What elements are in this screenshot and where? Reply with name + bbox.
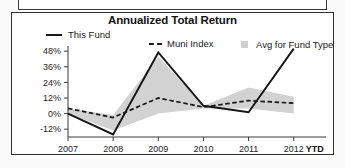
y-tick-label: 36% <box>43 62 61 72</box>
x-tick-label: 2012 <box>284 144 304 154</box>
x-tick-label: 2009 <box>148 144 168 154</box>
plot-svg: 48%36%24%12%0%-12% 200720082009201020112… <box>12 13 335 156</box>
y-tick-label: 0% <box>48 109 61 119</box>
x-tick-label: 2011 <box>239 144 258 154</box>
avg-fund-type-band <box>68 56 294 130</box>
x-tick-label: 2007 <box>58 144 78 154</box>
y-axis-tick-labels: 48%36%24%12%0%-12% <box>40 46 61 134</box>
screenshot-root: Annualized Total Return This Fund Muni I… <box>0 0 345 168</box>
x-axis-tick-labels: 200720082009201020112012 <box>58 144 304 154</box>
x-axis-ytd-note: YTD <box>306 144 325 154</box>
x-tick-label: 2008 <box>103 144 123 154</box>
y-tick-label: 24% <box>43 78 61 88</box>
annualized-total-return-panel: Annualized Total Return This Fund Muni I… <box>11 12 334 155</box>
y-tick-label: 12% <box>43 93 61 103</box>
x-tick-label: 2010 <box>193 144 213 154</box>
y-tick-label: -12% <box>40 124 61 134</box>
upper-panel-fragment <box>18 0 327 10</box>
y-tick-label: 48% <box>43 46 61 56</box>
plot-area: 48%36%24%12%0%-12% 200720082009201020112… <box>12 13 335 156</box>
